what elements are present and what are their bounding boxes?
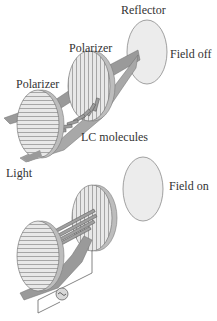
label-reflector: Reflector [121, 4, 166, 16]
ac-source-icon [56, 288, 68, 300]
label-polarizer-front: Polarizer [16, 78, 59, 90]
field-on-assembly [17, 157, 163, 313]
label-polarizer-rear: Polarizer [69, 42, 112, 54]
label-field-off: Field off [170, 48, 211, 60]
label-lc-molecules: LC molecules [81, 131, 148, 143]
polarizer-front-bottom [17, 221, 59, 291]
label-field-on: Field on [169, 180, 209, 192]
label-light: Light [6, 167, 32, 179]
circuit-wire-2 [38, 302, 60, 313]
reflector-top [127, 20, 167, 84]
polarizer-front [17, 90, 59, 158]
reflector-bottom [123, 157, 163, 221]
